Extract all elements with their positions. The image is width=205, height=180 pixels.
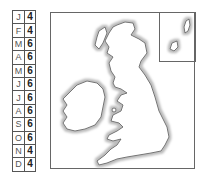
month-label: J	[13, 11, 25, 24]
month-label: N	[13, 144, 25, 157]
month-label: F	[13, 24, 25, 37]
month-table: J4F4M6A6M6J6J6A6S6O6N4D4	[12, 10, 36, 172]
shetland-inset	[159, 12, 196, 62]
month-label: M	[13, 64, 25, 77]
month-value: 6	[25, 37, 36, 50]
isle-of-man-shape	[112, 108, 116, 112]
month-label: S	[13, 118, 25, 131]
month-row: J6	[13, 77, 36, 90]
month-value: 4	[25, 24, 36, 37]
shetland-outline	[160, 13, 197, 63]
month-value: 4	[25, 144, 36, 157]
month-row: J6	[13, 91, 36, 104]
month-label: A	[13, 104, 25, 117]
month-value: 6	[25, 51, 36, 64]
month-value: 6	[25, 91, 36, 104]
month-label: D	[13, 158, 25, 171]
month-value: 6	[25, 64, 36, 77]
month-label: J	[13, 91, 25, 104]
month-row: S6	[13, 118, 36, 131]
month-value: 4	[25, 11, 36, 24]
map-frame	[50, 12, 195, 169]
month-value: 6	[25, 104, 36, 117]
month-value: 6	[25, 118, 36, 131]
month-value: 6	[25, 77, 36, 90]
month-label: A	[13, 51, 25, 64]
month-label: J	[13, 77, 25, 90]
month-row: F4	[13, 24, 36, 37]
month-value: 4	[25, 158, 36, 171]
month-row: A6	[13, 104, 36, 117]
month-row: M6	[13, 37, 36, 50]
month-row: A6	[13, 51, 36, 64]
hebrides-shape	[95, 27, 107, 49]
month-value: 6	[25, 131, 36, 144]
month-row: M6	[13, 64, 36, 77]
month-row: O6	[13, 131, 36, 144]
month-label: M	[13, 37, 25, 50]
month-row: J4	[13, 11, 36, 24]
month-label: O	[13, 131, 25, 144]
month-row: D4	[13, 158, 36, 171]
ireland-shape	[63, 81, 105, 131]
month-row: N4	[13, 144, 36, 157]
